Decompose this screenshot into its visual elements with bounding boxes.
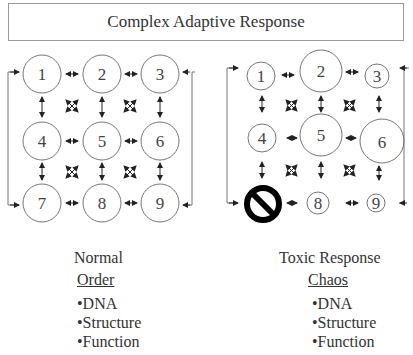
svg-text:3: 3 bbox=[156, 65, 165, 84]
svg-text:2: 2 bbox=[317, 62, 326, 81]
toxic-bullet-structure: •Structure bbox=[312, 315, 376, 331]
svg-text:4: 4 bbox=[38, 132, 47, 151]
svg-text:9: 9 bbox=[372, 194, 381, 213]
normal-bullet-structure: •Structure bbox=[77, 315, 141, 331]
svg-text:6: 6 bbox=[156, 132, 165, 151]
svg-text:4: 4 bbox=[258, 129, 267, 148]
toxic-subheading: Chaos bbox=[308, 272, 348, 288]
normal-bullet-dna: •DNA bbox=[77, 296, 117, 312]
prohibited-icon bbox=[247, 188, 279, 220]
svg-text:1: 1 bbox=[38, 65, 47, 84]
svg-text:8: 8 bbox=[314, 194, 323, 213]
normal-subheading: Order bbox=[77, 272, 114, 288]
normal-heading: Normal bbox=[74, 250, 123, 266]
toxic-bullet-function: •Function bbox=[312, 334, 375, 350]
toxic-heading: Toxic Response bbox=[279, 250, 381, 266]
svg-text:5: 5 bbox=[317, 126, 326, 145]
svg-text:2: 2 bbox=[98, 65, 107, 84]
svg-text:3: 3 bbox=[373, 67, 382, 86]
order-label: Order bbox=[77, 271, 114, 288]
svg-text:8: 8 bbox=[98, 194, 107, 213]
svg-text:5: 5 bbox=[98, 132, 107, 151]
svg-text:7: 7 bbox=[38, 194, 47, 213]
chaos-label: Chaos bbox=[308, 271, 348, 288]
svg-text:1: 1 bbox=[257, 67, 266, 86]
svg-text:6: 6 bbox=[378, 133, 387, 152]
toxic-bullet-dna: •DNA bbox=[312, 296, 352, 312]
normal-bullet-function: •Function bbox=[77, 334, 140, 350]
svg-text:9: 9 bbox=[156, 194, 165, 213]
